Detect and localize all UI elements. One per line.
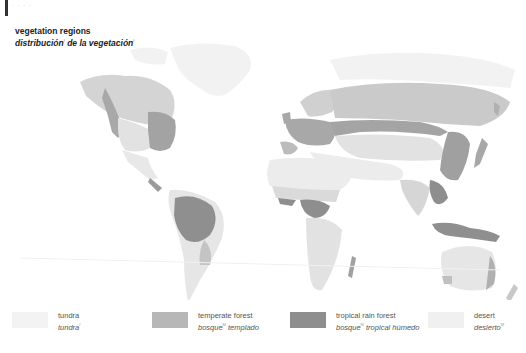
map-region-russia-boreal — [330, 83, 510, 126]
legend-item-tundra: tundra tundraf — [12, 311, 80, 332]
title-english: vegetation regions — [15, 26, 134, 36]
legend-label-es: desiertoM — [474, 320, 504, 332]
map-region-africa-rainforest — [300, 200, 330, 218]
legend-label-en: temperate forest — [198, 311, 259, 320]
map-region-iberia — [280, 142, 298, 155]
legend-item-desert: desert desiertoM — [428, 311, 504, 332]
map-region-india — [400, 180, 430, 216]
world-vegetation-map — [0, 40, 526, 300]
legend-label-es: tundraf — [58, 320, 80, 332]
map-guide-line — [20, 258, 500, 270]
map-region-australia-sw — [442, 276, 452, 284]
map-region-north-america-temperate-east — [148, 112, 176, 151]
gender-marker: f — [79, 322, 80, 327]
legend-label-en: tundra — [58, 311, 80, 320]
map-region-greenland — [170, 43, 251, 95]
legend-label-en: desert — [474, 311, 504, 320]
map-legend: tundra tundraf temperate forest bosqueM … — [0, 311, 526, 333]
map-region-southeast-asia — [430, 180, 449, 204]
map-region-central-asia-steppe — [335, 134, 443, 160]
map-region-british-isles — [282, 112, 291, 124]
gender-marker: M — [501, 322, 504, 327]
map-region-arctic-islands — [130, 47, 168, 64]
map-region-mexico — [122, 150, 158, 180]
map-region-central-america — [148, 178, 162, 192]
legend-label-es: bosqueM tropical húmedo — [336, 320, 419, 332]
map-region-sahara — [267, 158, 352, 190]
legend-label-en: tropical rain forest — [336, 311, 419, 320]
page-corner-dots: · · · · — [12, 2, 32, 8]
map-region-southern-africa — [306, 218, 342, 290]
legend-swatch-tropical-rain-forest — [290, 312, 326, 328]
map-region-indonesia — [432, 223, 500, 242]
legend-label-es: bosqueM templado — [198, 320, 259, 332]
legend-item-temperate-forest: temperate forest bosqueM templado — [152, 311, 259, 332]
page-corner-bar — [5, 0, 8, 16]
map-region-japan — [474, 138, 488, 168]
map-region-siberia-tundra — [330, 53, 515, 88]
map-region-madagascar — [348, 256, 356, 278]
legend-item-tropical-rain-forest: tropical rain forest bosqueM tropical hú… — [290, 311, 419, 332]
legend-swatch-tundra — [12, 312, 48, 328]
legend-swatch-temperate-forest — [152, 312, 188, 328]
legend-swatch-desert — [428, 312, 464, 328]
map-region-east-asia-forest — [440, 132, 470, 181]
map-region-europe-temperate — [285, 118, 335, 145]
map-region-new-zealand — [506, 284, 518, 300]
